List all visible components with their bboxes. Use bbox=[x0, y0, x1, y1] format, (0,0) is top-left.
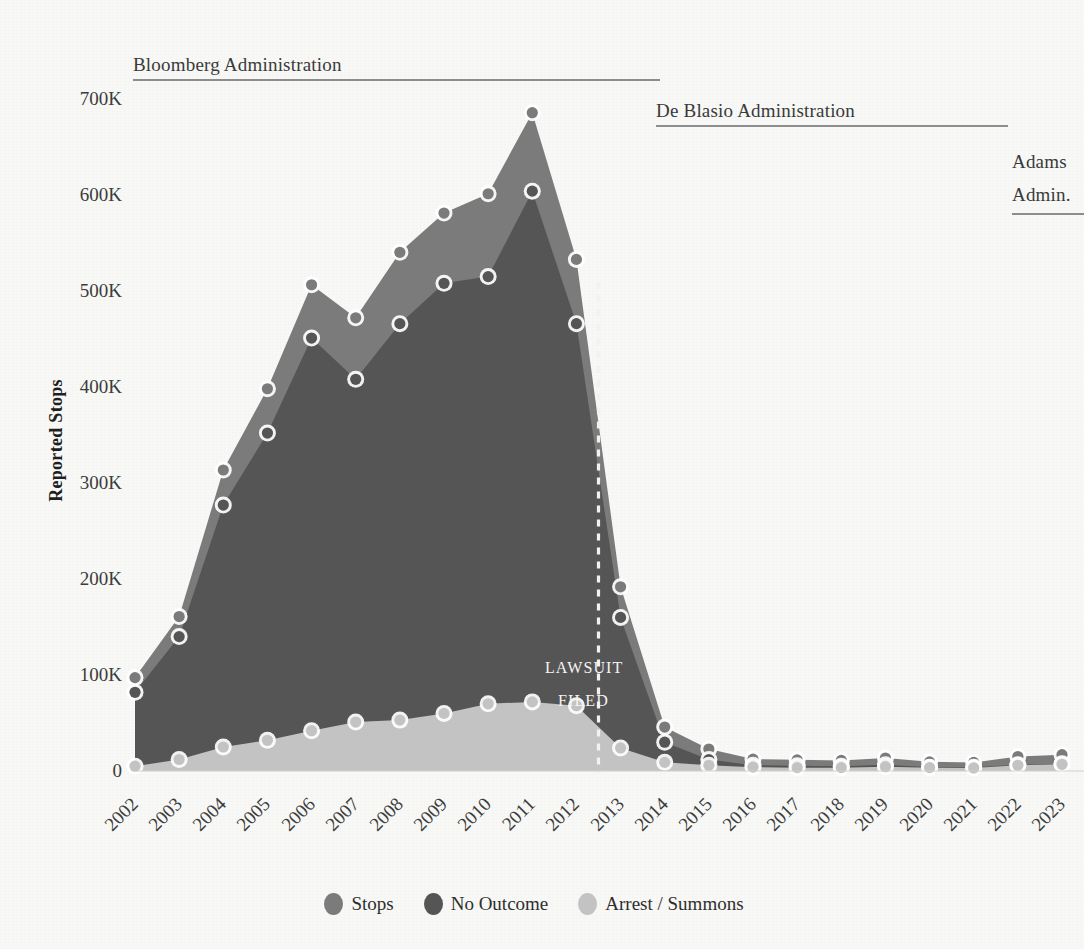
x-axis-tick-label: 2015 bbox=[664, 793, 716, 845]
legend-label: Stops bbox=[351, 893, 393, 915]
x-axis-tick-label: 2016 bbox=[708, 793, 760, 845]
x-axis-tick-label: 2005 bbox=[223, 793, 275, 845]
x-axis-tick-label: 2011 bbox=[488, 793, 540, 845]
x-axis-tick-label: 2012 bbox=[532, 793, 584, 845]
x-axis-tick-label: 2017 bbox=[753, 793, 805, 845]
legend-swatch-icon bbox=[324, 893, 343, 915]
x-axis-tick-label: 2009 bbox=[399, 793, 451, 845]
x-axis-tick-label: 2019 bbox=[841, 793, 893, 845]
legend-item-no-outcome[interactable]: No Outcome bbox=[424, 893, 549, 915]
legend-label: Arrest / Summons bbox=[605, 893, 743, 915]
x-axis-ticks: 2002200320042005200620072008200920102011… bbox=[0, 0, 1084, 949]
legend-label: No Outcome bbox=[451, 893, 549, 915]
x-axis-tick-label: 2014 bbox=[620, 793, 672, 845]
legend-item-stops[interactable]: Stops bbox=[324, 893, 393, 915]
x-axis-tick-label: 2022 bbox=[973, 793, 1025, 845]
x-axis-tick-label: 2010 bbox=[444, 793, 496, 845]
x-axis-tick-label: 2004 bbox=[179, 793, 231, 845]
x-axis-tick-label: 2006 bbox=[267, 793, 319, 845]
x-axis-tick-label: 2008 bbox=[355, 793, 407, 845]
legend-swatch-icon bbox=[424, 893, 443, 915]
x-axis-tick-label: 2002 bbox=[90, 793, 142, 845]
x-axis-tick-label: 2007 bbox=[311, 793, 363, 845]
x-axis-tick-label: 2020 bbox=[885, 793, 937, 845]
legend-item-arrest-summons[interactable]: Arrest / Summons bbox=[578, 893, 743, 915]
x-axis-tick-label: 2013 bbox=[576, 793, 628, 845]
x-axis-tick-label: 2003 bbox=[135, 793, 187, 845]
x-axis-tick-label: 2023 bbox=[1017, 793, 1069, 845]
chart-page: Bloomberg Administration De Blasio Admin… bbox=[0, 0, 1084, 949]
chart-legend: StopsNo OutcomeArrest / Summons bbox=[0, 893, 1084, 915]
x-axis-tick-label: 2018 bbox=[797, 793, 849, 845]
legend-swatch-icon bbox=[578, 893, 597, 915]
x-axis-tick-label: 2021 bbox=[929, 793, 981, 845]
